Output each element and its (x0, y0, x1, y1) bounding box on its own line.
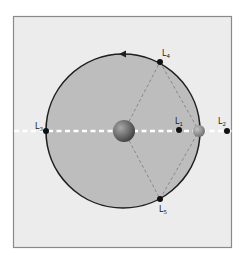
lagrange-point-l5 (157, 196, 163, 202)
lagrange-diagram: L1 L2 L3 L4 L5 (0, 0, 245, 262)
secondary-body (193, 125, 205, 137)
lagrange-point-l2 (224, 128, 230, 134)
lagrange-point-l4 (157, 59, 163, 65)
primary-body (113, 120, 135, 142)
lagrange-point-l1 (176, 127, 182, 133)
lagrange-point-l3 (43, 128, 49, 134)
